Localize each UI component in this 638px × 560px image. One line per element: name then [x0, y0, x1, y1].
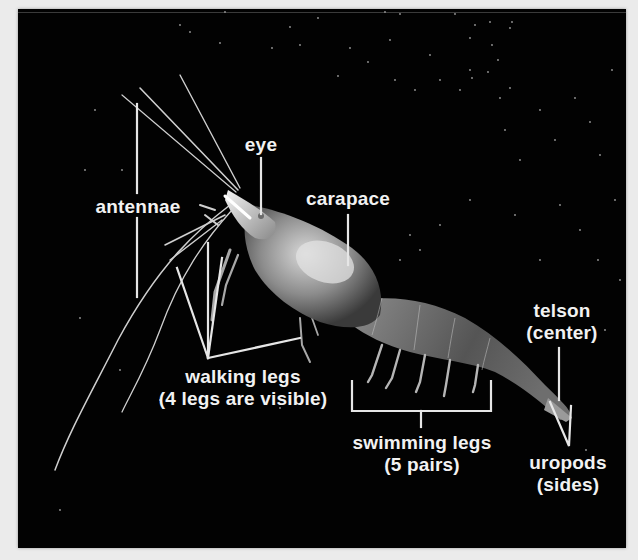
label-swimming-legs: swimming legs (5 pairs): [348, 432, 496, 476]
walking-legs-title: walking legs: [145, 366, 341, 388]
walking-leg-leader-1: [177, 268, 208, 358]
walking-leg-leader-3: [208, 258, 222, 358]
walking-legs-note: (4 legs are visible): [145, 388, 341, 410]
uropods-note: (sides): [522, 474, 614, 496]
swimming-legs-note: (5 pairs): [348, 454, 496, 476]
label-eye: eye: [236, 134, 286, 156]
label-antennae: antennae: [88, 196, 188, 218]
label-telson: telson (center): [522, 300, 602, 344]
label-carapace: carapace: [300, 188, 396, 210]
walking-leg-leader-4: [208, 338, 300, 358]
label-walking-legs: walking legs (4 legs are visible): [145, 366, 341, 410]
telson-note: (center): [522, 322, 602, 344]
uropods-title: uropods: [522, 452, 614, 474]
antennae-strands: [55, 75, 240, 470]
swimming-legs-title: swimming legs: [348, 432, 496, 454]
telson-title: telson: [522, 300, 602, 322]
label-uropods: uropods (sides): [522, 452, 614, 496]
swimming-legs-bracket: [352, 381, 491, 411]
